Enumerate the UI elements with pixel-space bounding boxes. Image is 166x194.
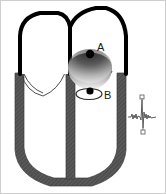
label-point-a: A <box>97 41 105 53</box>
left-atrium <box>20 13 70 74</box>
label-point-b: B <box>104 89 111 101</box>
point-b-marker <box>86 87 93 94</box>
ecg-bottom-marker <box>141 130 145 134</box>
point-a-marker <box>86 50 94 58</box>
figure-canvas: A B <box>0 0 166 194</box>
ecg-trace <box>128 98 156 130</box>
interventricular-septum <box>66 73 75 179</box>
mitral-valve-leaflets <box>21 73 65 96</box>
heart-diagram: A B <box>0 0 166 194</box>
